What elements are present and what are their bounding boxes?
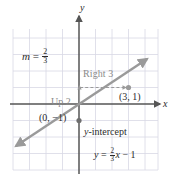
equation-numerator: 2 bbox=[110, 148, 115, 155]
slope-equals-sign: = bbox=[33, 50, 39, 62]
slope-variable: m bbox=[22, 50, 30, 62]
equation-equals-sign: = bbox=[101, 149, 107, 160]
slope-denominator: 3 bbox=[42, 56, 48, 65]
plotted-line bbox=[16, 59, 147, 146]
coordinate-plane-svg bbox=[0, 0, 174, 184]
equation-x-variable: x bbox=[116, 149, 120, 160]
equation-denominator: 3 bbox=[110, 155, 115, 163]
point-3-1-marker bbox=[126, 85, 131, 90]
slope-numerator: 2 bbox=[42, 48, 48, 56]
equation-label: y = 2 3 x − 1 bbox=[94, 148, 136, 164]
y-intercept-suffix: -intercept bbox=[88, 126, 126, 137]
rise-label: Up 2 bbox=[51, 97, 71, 107]
point-3-1-coordinate-label: (3, 1) bbox=[119, 92, 141, 102]
y-intercept-text-label: y-intercept bbox=[84, 127, 127, 137]
y-axis-label: y bbox=[80, 3, 84, 13]
graph-figure: y x m = 2 3 Right 3 Up 2 (0, −1) (3, 1) … bbox=[0, 0, 174, 184]
equation-y-variable: y bbox=[94, 149, 98, 160]
y-intercept-point bbox=[76, 118, 81, 123]
equation-fraction: 2 3 bbox=[110, 148, 115, 164]
slope-label: m = 2 3 bbox=[22, 48, 49, 65]
x-axis-label: x bbox=[163, 99, 167, 109]
y-intercept-coordinate-label: (0, −1) bbox=[39, 113, 66, 123]
equation-constant: − 1 bbox=[122, 149, 135, 160]
slope-fraction: 2 3 bbox=[42, 48, 48, 65]
run-label: Right 3 bbox=[83, 69, 113, 79]
